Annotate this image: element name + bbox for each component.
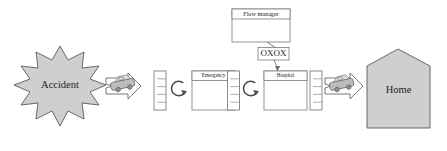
node-hospital[interactable]: Hospital [264,71,307,110]
diagram-svg: Accident [0,0,447,151]
oxox-label: OXOX [261,48,287,58]
flow-manager-label: Flow manager [243,10,279,17]
server-2[interactable] [243,81,259,95]
node-oxox[interactable]: OXOX [258,48,289,61]
diagram-canvas: Accident [0,0,447,151]
ambulance-2-group[interactable] [325,73,363,99]
node-home[interactable]: Home [367,49,430,128]
node-flow-manager[interactable]: Flow manager [232,9,290,42]
node-accident[interactable]: Accident [14,46,106,126]
home-label: Home [386,84,412,95]
ambulance-1-group[interactable] [106,73,141,99]
queue-1[interactable] [154,71,166,110]
accident-label: Accident [41,79,79,90]
connector-oxox-hospital [274,60,280,72]
connector-flowmanager-oxox [267,42,276,48]
emergency-label: Emergency [202,72,226,78]
hospital-label: Hospital [277,72,295,78]
queue-3[interactable] [310,71,322,110]
queue-2[interactable] [228,71,240,110]
server-1[interactable] [171,81,187,95]
